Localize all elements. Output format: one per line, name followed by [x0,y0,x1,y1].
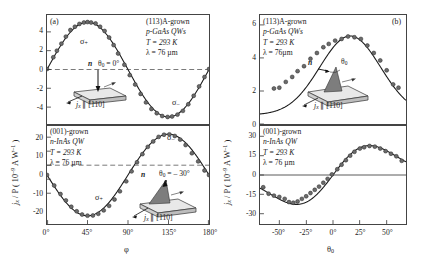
panel-a-bottom-info: (001)-grown n-InAs QW T = 293 K λ = 76 µ… [50,127,88,169]
data-point [384,149,388,153]
panel-b-top-info: (113)A-grown p-GaAs QWs T = 293 K λ = 76… [263,17,307,59]
data-point [96,212,100,216]
data-point [358,147,362,151]
x-tick-label: 45° [76,228,98,237]
y-tick-label: -30 [231,209,256,218]
x-tick-marks [279,220,386,224]
y-axis-j-subscript: x [226,200,232,203]
data-point [59,42,63,46]
data-point [207,67,209,71]
data-point [69,205,73,209]
y-tick-label: 4 [231,53,256,62]
data-point [47,173,49,177]
y-axis-j-symbol: j [11,203,20,205]
data-point [155,111,159,115]
y-tick-label: 4 [18,26,43,35]
data-point [277,195,281,199]
data-point [352,150,356,154]
data-point [68,28,72,32]
y-tick-label: 2 [18,45,43,54]
data-point [359,37,363,41]
sigma-minus-label-a-top: σ– [172,98,179,107]
data-point [272,87,276,91]
data-point [140,152,144,156]
data-point [197,84,201,88]
data-point [287,200,291,204]
panel-a-top-info: (113)A-grown p-GaAs QWs T = 293 K λ = 76… [146,17,190,59]
data-point [330,172,334,176]
data-point [333,39,337,43]
data-point [317,185,321,189]
data-point [98,25,102,29]
info-line-material: (113)A-grown [263,17,307,27]
data-point [348,154,352,158]
data-point [139,92,143,96]
y-tick-label: -4 [18,103,43,112]
x-tick-label: -50° [268,228,290,237]
theta-subscript: 0 [345,60,348,66]
data-point [344,158,348,162]
data-point [184,143,188,147]
data-point [102,208,106,212]
y-tick-label: 30 [231,131,256,140]
data-point [290,75,294,79]
sigma-subscript: – [171,136,174,142]
y-tick-label: 6 [231,19,256,28]
data-point [151,139,155,143]
data-point [321,45,325,49]
data-point [283,197,287,201]
sigma-subscript: – [176,101,179,107]
panel-b-bottom-info: (001)-grown n-InAs QW T = 293 K λ = 76 µ… [263,127,301,169]
y-tick-label: -15 [231,190,256,199]
data-point [378,147,382,151]
data-point [77,22,81,26]
data-point [362,145,366,149]
data-point [272,194,276,198]
theta-value: = 0° [104,59,119,68]
data-point [304,194,308,198]
data-point [52,184,56,188]
x-tick-label: 90° [117,228,139,237]
info-line-temperature: T = 293 K [50,148,88,158]
data-point [64,35,68,39]
info-line-temperature: T = 293 K [146,38,190,48]
x-tick-label: 180° [199,228,221,237]
data-point [267,192,271,196]
data-point [300,197,304,201]
info-line-sample: p-GaAs QWs [146,27,190,37]
y-axis-exponent2: –1 [10,145,16,151]
y-tick-label: 15 [231,150,256,159]
inset-panel-b-top: n θ0 jx ∥ [1̈1̈0] [296,56,386,112]
data-point [284,80,288,84]
info-line-sample: n-InAs QW [263,137,301,147]
figure-root: jx / P ( 10–9 A W–1 ) (a) (113)A-grown p… [0,0,429,268]
y-axis-exponent: –9 [10,168,16,174]
x-tick-label: 0° [35,228,57,237]
data-point [86,20,90,24]
sigma-subscript: + [84,40,87,46]
inset-b-top-angle-label: θ0 [341,58,347,67]
crystal-direction: ∥ [1̈1̈0] [149,213,173,222]
info-line-temperature: T = 293 K [263,38,307,48]
info-line-material: (113)A-grown [146,17,190,27]
data-point [82,21,86,25]
data-point [196,159,200,163]
data-point [321,181,325,185]
inset-panel-a-top: n θ0 = 0° jx ∥ [1̈1̈0] [58,60,138,108]
data-point [170,115,174,119]
x-tick-label: -25° [295,228,317,237]
info-line-wavelength: λ = 76 µm [50,158,88,168]
info-line-temperature: T = 293 K [263,148,301,158]
y-tick-label: 0 [231,170,256,179]
data-point [192,94,196,98]
data-point [86,214,90,218]
data-point [162,133,166,137]
x-tick-label: 50° [376,228,398,237]
data-point [391,82,395,86]
sigma-subscript: + [99,196,102,202]
info-line-sample: p-GaAs QWs [263,27,307,37]
y-axis-close-paren: ) [223,140,232,145]
data-point [186,102,190,106]
data-point [389,152,393,156]
data-point [335,167,339,171]
